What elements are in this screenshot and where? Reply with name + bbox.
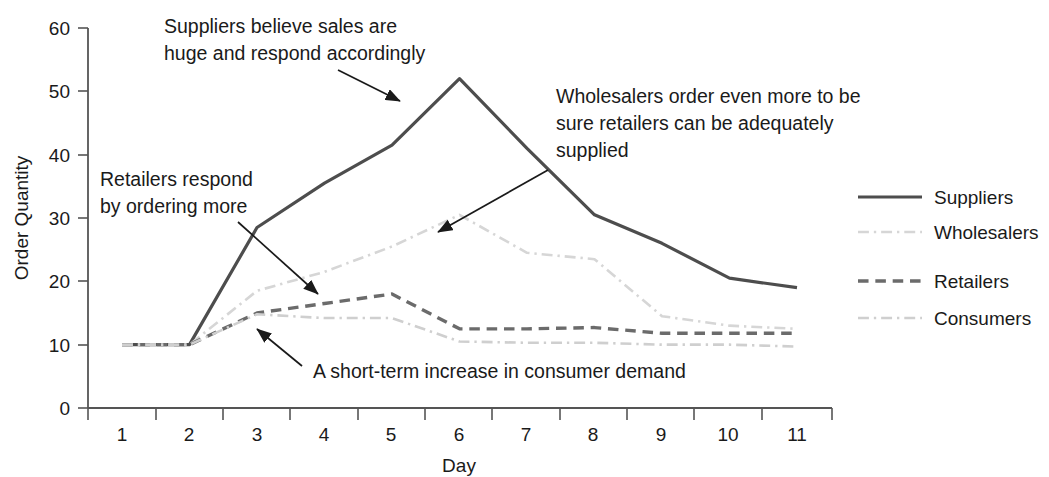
x-tick-label-11: 11 [787,424,807,445]
legend-item-suppliers[interactable]: Suppliers [858,187,1013,208]
annotation-retailers-line1: Retailers respond [100,168,253,190]
annotation-retailers-line2: by ordering more [100,195,247,217]
x-tick-label-2: 2 [184,424,195,445]
legend-item-consumers[interactable]: Consumers [858,308,1031,329]
annotation-wholesalers: Wholesalers order even more to be sure r… [438,85,861,232]
x-tick-label-3: 3 [252,424,263,445]
annotation-retailers-arrow [238,222,318,294]
legend-label-consumers: Consumers [934,308,1031,329]
y-tick-label-40: 40 [49,145,70,166]
annotation-consumers-arrow [257,329,302,366]
x-tick-label-6: 6 [454,424,465,445]
x-tick-label-8: 8 [588,424,599,445]
annotation-retailers: Retailers respond by ordering more [100,168,318,294]
x-tick-label-5: 5 [386,424,397,445]
x-tick-label-7: 7 [521,424,532,445]
annotation-suppliers-arrow [338,70,400,101]
legend-label-wholesalers: Wholesalers [934,222,1039,243]
annotation-wholesalers-line2: sure retailers can be adequately [556,112,834,134]
legend-label-suppliers: Suppliers [934,187,1013,208]
chart-page: 60 50 40 30 20 10 0 1 2 3 4 5 [0,0,1049,477]
annotation-consumers: A short-term increase in consumer demand [257,329,686,382]
annotation-wholesalers-arrow [438,170,548,232]
y-tick-label-10: 10 [49,335,70,356]
annotation-suppliers-line2: huge and respond accordingly [164,42,426,64]
x-tick-label-9: 9 [656,424,667,445]
x-tick-label-4: 4 [319,424,330,445]
x-axis-title: Day [442,455,476,476]
legend-item-wholesalers[interactable]: Wholesalers [858,222,1039,243]
y-tick-label-0: 0 [59,398,70,419]
annotation-suppliers: Suppliers believe sales are huge and res… [164,15,426,101]
y-tick-label-20: 20 [49,271,70,292]
legend-item-retailers[interactable]: Retailers [858,271,1009,292]
annotation-consumers-line1: A short-term increase in consumer demand [313,360,686,382]
annotation-wholesalers-line1: Wholesalers order even more to be [556,85,861,107]
y-tick-label-30: 30 [49,208,70,229]
y-axis-title: Order Quantity [11,155,32,280]
y-tick-label-60: 60 [49,18,70,39]
legend-label-retailers: Retailers [934,271,1009,292]
bullwhip-effect-line-chart: 60 50 40 30 20 10 0 1 2 3 4 5 [0,0,1049,477]
x-tick-label-10: 10 [717,424,738,445]
y-tick-label-50: 50 [49,81,70,102]
x-tick-label-1: 1 [117,424,128,445]
series-line-wholesalers [122,215,797,345]
annotation-suppliers-line1: Suppliers believe sales are [164,15,397,37]
legend: Suppliers Wholesalers Retailers Consumer… [858,187,1039,329]
annotation-wholesalers-line3: supplied [556,139,629,161]
